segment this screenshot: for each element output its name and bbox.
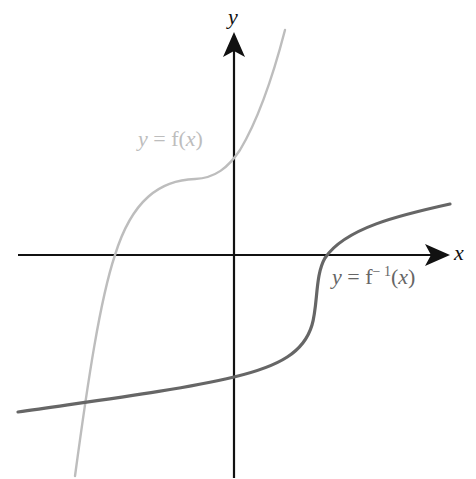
y-axis-label: y bbox=[228, 4, 238, 30]
f-curve-label: y = f(x) bbox=[138, 126, 203, 152]
x-axis-label: x bbox=[454, 240, 464, 266]
finv-label-close: ) bbox=[408, 264, 415, 289]
finv-label-eq: = bbox=[342, 264, 365, 289]
f-inverse-curve-label: y = f− 1(x) bbox=[332, 264, 415, 290]
f-label-close: ) bbox=[196, 126, 203, 151]
finv-label-var: x bbox=[398, 264, 408, 289]
f-label-y: y bbox=[138, 126, 148, 151]
f-label-var: x bbox=[186, 126, 196, 151]
finv-label-y: y bbox=[332, 264, 342, 289]
finv-label-sup: − 1 bbox=[373, 264, 391, 279]
diagram-canvas bbox=[0, 0, 476, 479]
f-label-eq: = bbox=[148, 126, 171, 151]
f-label-func: f( bbox=[171, 126, 186, 151]
finv-label-func: f bbox=[365, 264, 372, 289]
f-curve bbox=[75, 30, 285, 476]
